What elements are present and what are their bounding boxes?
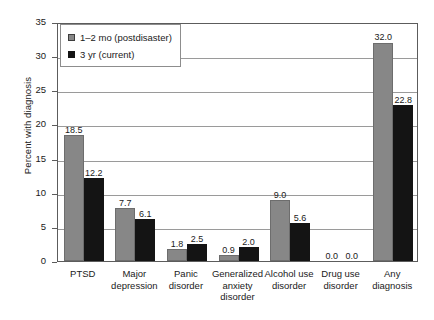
legend-swatch-black xyxy=(68,51,75,58)
gridline xyxy=(58,92,417,93)
bar xyxy=(135,219,155,261)
legend-item-3-yr: 3 yr (current) xyxy=(68,47,172,61)
bar-value-label: 18.5 xyxy=(59,125,89,135)
y-axis-tick-label: 5 xyxy=(41,221,46,232)
gridline xyxy=(58,126,417,127)
gridline xyxy=(58,161,417,162)
bar-value-label: 32.0 xyxy=(368,32,398,42)
legend-label-1-2-mo: 1–2 mo (postdisaster) xyxy=(80,32,172,43)
bar-value-label: 9.0 xyxy=(265,190,295,200)
x-axis-category-label: Any diagnosis xyxy=(355,268,429,291)
y-axis-tick-label: 20 xyxy=(35,118,46,129)
gridline xyxy=(58,195,417,196)
bar xyxy=(393,105,413,261)
bar-value-label: 2.0 xyxy=(234,237,264,247)
y-axis-tick-label: 30 xyxy=(35,50,46,61)
y-axis-tick-label: 35 xyxy=(35,16,46,27)
bar-value-label: 7.7 xyxy=(110,198,140,208)
bar-value-label: 5.6 xyxy=(285,213,315,223)
legend-label-3-yr: 3 yr (current) xyxy=(80,49,134,60)
bar-value-label: 0.0 xyxy=(337,251,367,261)
bar xyxy=(219,255,239,261)
gridline xyxy=(58,229,417,230)
bar-value-label: 6.1 xyxy=(130,209,160,219)
y-axis-tick-label: 0 xyxy=(41,255,46,266)
bar-value-label: 12.2 xyxy=(79,168,109,178)
bar xyxy=(167,249,187,261)
y-axis-title: Percent with diagnosis xyxy=(22,36,33,216)
y-axis-tick-label: 25 xyxy=(35,84,46,95)
bar xyxy=(84,178,104,261)
legend-item-1-2-mo: 1–2 mo (postdisaster) xyxy=(68,30,172,44)
bar-value-label: 2.5 xyxy=(182,234,212,244)
bar xyxy=(290,223,310,261)
y-axis-tick-label: 10 xyxy=(35,187,46,198)
legend-swatch-gray xyxy=(68,34,75,41)
bar xyxy=(64,135,84,261)
bar xyxy=(373,43,393,262)
bar xyxy=(270,200,290,261)
bar-value-label: 22.8 xyxy=(388,95,418,105)
y-axis-tick-mark xyxy=(52,262,57,263)
bar-chart-figure: Percent with diagnosis 05101520253035 18… xyxy=(0,0,434,320)
chart-legend: 1–2 mo (postdisaster) 3 yr (current) xyxy=(60,24,181,67)
y-axis-tick-label: 15 xyxy=(35,153,46,164)
